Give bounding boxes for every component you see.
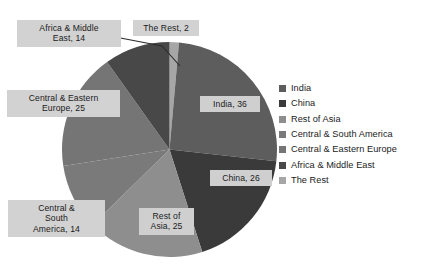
- legend-item-rest-of-asia[interactable]: Rest of Asia: [279, 112, 429, 127]
- legend-swatch-icon: [279, 162, 286, 169]
- legend-item-central-eastern-europe[interactable]: Central & Eastern Europe: [279, 142, 429, 157]
- legend-swatch-icon: [279, 100, 286, 107]
- legend-item-label: Rest of Asia: [291, 114, 341, 125]
- legend-item-label: Central & South America: [291, 129, 393, 140]
- chart-legend: IndiaChinaRest of AsiaCentral & South Am…: [279, 81, 429, 188]
- legend-item-label: The Rest: [291, 175, 329, 186]
- slice-label-rest-of-asia: Rest of Asia, 25: [139, 208, 194, 235]
- legend-item-label: India: [291, 83, 311, 94]
- legend-swatch-icon: [279, 116, 286, 123]
- legend-swatch-icon: [279, 131, 286, 138]
- legend-item-label: China: [291, 98, 315, 109]
- legend-item-central-south-america[interactable]: Central & South America: [279, 127, 429, 142]
- slice-label-china: China, 26: [210, 170, 272, 186]
- pie-chart-figure: Africa & Middle East, 14 The Rest, 2 Cen…: [0, 0, 430, 269]
- slice-label-africa-middle-east: Africa & Middle East, 14: [17, 20, 121, 47]
- slice-label-india: India, 36: [200, 96, 260, 112]
- legend-item-label: Africa & Middle East: [291, 160, 375, 171]
- legend-item-china[interactable]: China: [279, 96, 429, 111]
- legend-item-india[interactable]: India: [279, 81, 429, 96]
- legend-swatch-icon: [279, 177, 286, 184]
- slice-label-central-eastern-europe: Central & Eastern Europe, 25: [7, 90, 120, 117]
- slice-label-the-rest: The Rest, 2: [133, 20, 199, 36]
- legend-swatch-icon: [279, 85, 286, 92]
- legend-item-label: Central & Eastern Europe: [291, 144, 397, 155]
- slice-label-central-south-america: Central & South America, 14: [8, 200, 105, 237]
- legend-item-africa-middle-east[interactable]: Africa & Middle East: [279, 157, 429, 172]
- legend-item-the-rest[interactable]: The Rest: [279, 173, 429, 188]
- legend-swatch-icon: [279, 146, 286, 153]
